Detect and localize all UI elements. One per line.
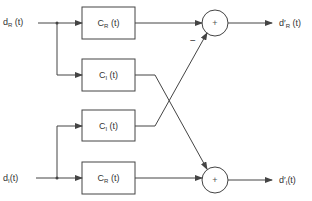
wire-dI-to-CI: [57, 126, 82, 178]
output-label-dI-prime: d′I(t): [279, 175, 296, 188]
wire-CI-top-to-summer-bottom: [135, 75, 207, 169]
input-label-dI: dI(t): [3, 173, 18, 186]
wire-dR-to-CI: [57, 23, 82, 75]
block-label-CI-top: CI (t): [82, 70, 135, 83]
summer-bottom-plus: +: [202, 175, 228, 185]
minus-sign-label: −: [190, 36, 196, 46]
input-label-dR: dR (t): [3, 17, 23, 30]
junction-dot-top: [56, 22, 59, 25]
summer-top-plus: +: [202, 18, 228, 28]
block-diagram-wiring: [0, 0, 312, 201]
block-label-CI-bottom: CI (t): [82, 121, 135, 134]
block-label-CR-top: CR (t): [82, 18, 135, 31]
block-label-CR-bottom: CR (t): [82, 173, 135, 186]
junction-dot-bottom: [56, 177, 59, 180]
wire-CI-bottom-to-summer-top: [135, 33, 207, 126]
output-label-dR-prime: d′R (t): [279, 18, 301, 31]
